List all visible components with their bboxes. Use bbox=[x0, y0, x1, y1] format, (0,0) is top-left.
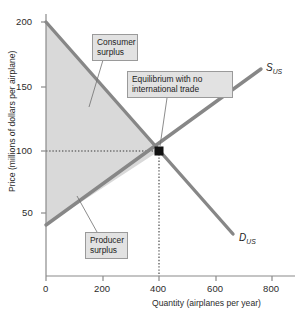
consumer-surplus-callout: Consumer surplus bbox=[92, 34, 138, 61]
x-tick-label-600: 600 bbox=[207, 283, 223, 294]
demand-curve-label: DUS bbox=[239, 232, 256, 245]
x-axis-title: Quantity (airplanes per year) bbox=[152, 298, 261, 308]
y-axis-title: Price (millions of dollars per airplane) bbox=[7, 51, 17, 192]
y-tick-label-100: 100 bbox=[16, 145, 32, 156]
y-tick-label-150: 150 bbox=[16, 81, 32, 92]
chart-plot-area bbox=[0, 0, 305, 315]
producer-surplus-leader-line bbox=[77, 196, 97, 232]
x-tick-label-800: 800 bbox=[263, 283, 279, 294]
x-tick-label-400: 400 bbox=[150, 283, 166, 294]
producer-surplus-callout: Producer surplus bbox=[85, 232, 128, 259]
demand-curve-label-sub: US bbox=[246, 238, 255, 245]
y-tick-label-200: 200 bbox=[16, 16, 32, 27]
equilibrium-point-marker bbox=[155, 147, 164, 156]
supply-curve-label: SUS bbox=[266, 62, 282, 75]
x-tick-label-0: 0 bbox=[43, 283, 48, 294]
supply-curve-label-sub: US bbox=[273, 68, 282, 75]
supply-demand-chart-figure: 50 100 150 200 0 200 400 600 800 Price (… bbox=[0, 0, 305, 315]
x-tick-label-200: 200 bbox=[94, 283, 110, 294]
supply-curve-label-main: S bbox=[266, 62, 273, 73]
y-tick-label-50: 50 bbox=[22, 207, 33, 218]
equilibrium-callout: Equilibrium with no international trade bbox=[127, 71, 233, 98]
